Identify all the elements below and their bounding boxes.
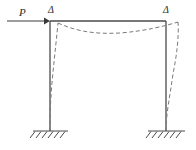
fixed-support-right [146, 131, 185, 138]
deflected-shape-dashed [50, 22, 178, 131]
support-left-hatch [30, 132, 35, 139]
support-right-hatch [158, 132, 163, 139]
support-right-hatch [170, 132, 175, 139]
load-label-P: P [19, 7, 26, 18]
deflected-left-column [50, 23, 58, 131]
load-arrow [7, 18, 50, 25]
frame-diagram-svg [0, 0, 196, 150]
load-arrow-head [44, 18, 50, 25]
support-right-hatch [146, 132, 151, 139]
undeformed-frame [50, 21, 166, 131]
support-left-hatch [42, 132, 47, 139]
deflected-beam [58, 22, 178, 33]
fixed-support-left [30, 131, 68, 138]
support-left-hatch [36, 132, 41, 139]
delta-label-right: Δ [163, 5, 169, 15]
support-right-hatch [164, 132, 169, 139]
structural-frame-figure: P Δ Δ [0, 0, 196, 150]
support-left-hatch [54, 132, 59, 139]
support-left-hatch [48, 132, 53, 139]
support-right-hatch [152, 132, 157, 139]
support-left-hatch [60, 132, 65, 139]
support-right-hatch [176, 132, 181, 139]
delta-label-left: Δ [48, 5, 54, 15]
deflected-right-column [166, 22, 178, 131]
